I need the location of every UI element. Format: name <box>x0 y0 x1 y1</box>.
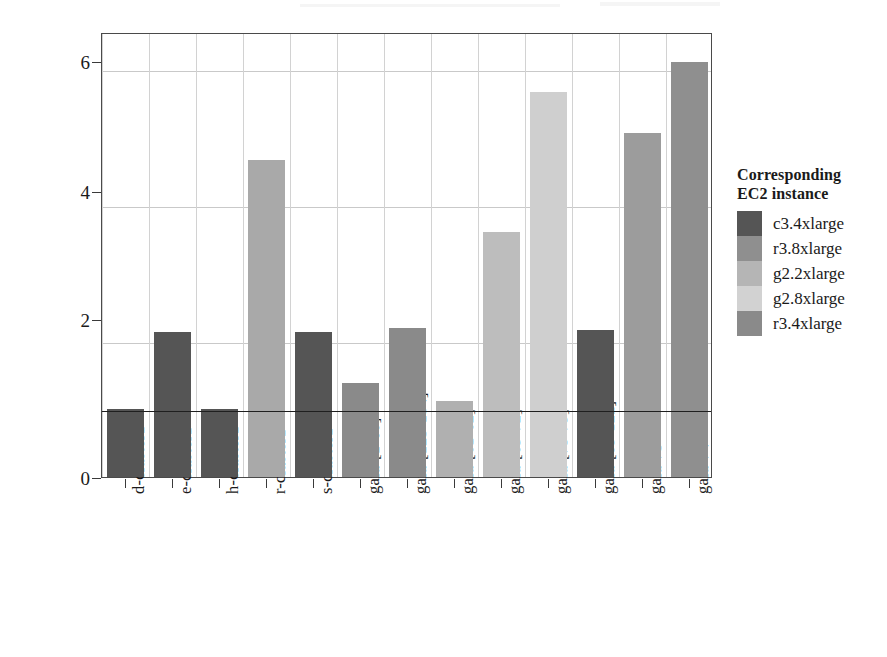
legend-swatch <box>737 211 762 236</box>
legend-label: g2.2xlarge <box>773 265 845 282</box>
legend-item: r3.4xlarge <box>737 311 883 336</box>
x-tick-mark <box>548 479 549 488</box>
y-tick-mark <box>92 320 101 321</box>
y-tick-mark <box>92 62 101 63</box>
scan-artifact <box>300 4 560 7</box>
y-axis-title: Ratio EC2 equivalent price over operatin… <box>14 0 78 60</box>
legend-item: g2.8xlarge <box>737 286 883 311</box>
x-tick-mark <box>689 479 690 488</box>
bar <box>389 328 427 477</box>
bar <box>295 332 333 477</box>
bar <box>201 409 239 477</box>
scan-artifact <box>600 2 720 6</box>
legend-swatch <box>737 261 762 286</box>
bar-chart-figure: Ratio EC2 equivalent price over operatin… <box>0 0 887 657</box>
y-tick-mark <box>92 192 101 193</box>
y-tick-label-4: 4 <box>50 183 90 202</box>
legend-swatch <box>737 286 762 311</box>
legend-item: c3.4xlarge <box>737 211 883 236</box>
bar <box>248 160 286 477</box>
legend: Corresponding EC2 instance c3.4xlarger3.… <box>737 166 883 336</box>
x-tick-mark <box>125 479 126 488</box>
legend-label: r3.4xlarge <box>773 315 842 332</box>
reference-line <box>102 411 711 412</box>
bar <box>483 232 521 477</box>
legend-label: g2.8xlarge <box>773 290 845 307</box>
x-tick-mark <box>219 479 220 488</box>
legend-title-line-2: EC2 instance <box>737 185 883 204</box>
bar <box>530 92 568 477</box>
legend-swatch <box>737 311 762 336</box>
x-tick-mark <box>313 479 314 488</box>
legend-items: c3.4xlarger3.8xlargeg2.2xlargeg2.8xlarge… <box>737 211 883 336</box>
x-tick-mark <box>360 479 361 488</box>
y-tick-label-0: 0 <box>50 469 90 488</box>
legend-item: r3.8xlarge <box>737 236 883 261</box>
x-tick-mark <box>407 479 408 488</box>
x-tick-mark <box>454 479 455 488</box>
legend-label: c3.4xlarge <box>773 215 844 232</box>
y-tick-mark <box>92 478 101 479</box>
bar <box>436 401 474 477</box>
bar <box>154 332 192 477</box>
bar <box>671 62 709 477</box>
bar <box>577 330 615 477</box>
x-tick-mark <box>501 479 502 488</box>
legend-title: Corresponding EC2 instance <box>737 166 883 204</box>
x-tick-mark <box>172 479 173 488</box>
x-tick-mark <box>266 479 267 488</box>
bar <box>342 383 380 477</box>
legend-title-line-1: Corresponding <box>737 166 883 185</box>
plot-inner <box>102 34 711 477</box>
y-tick-label-6: 6 <box>50 53 90 72</box>
legend-item: g2.2xlarge <box>737 261 883 286</box>
bar <box>624 133 662 477</box>
legend-label: r3.8xlarge <box>773 240 842 257</box>
y-tick-label-2: 2 <box>50 311 90 330</box>
legend-swatch <box>737 236 762 261</box>
x-tick-mark <box>642 479 643 488</box>
plot-area <box>101 33 712 478</box>
x-tick-mark <box>595 479 596 488</box>
bar <box>107 409 145 477</box>
